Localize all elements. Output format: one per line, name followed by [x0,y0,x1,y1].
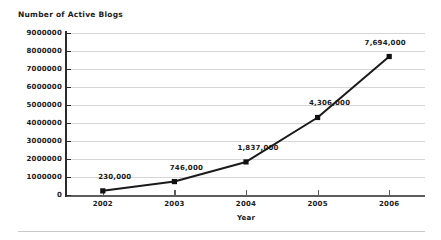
series-markers [100,54,392,194]
data-point-marker [172,179,177,184]
data-point-label: 746,000 [170,164,203,172]
data-point-marker [387,54,392,59]
data-series [0,0,441,240]
y-axis-tick-mark [67,177,71,178]
y-axis-tick-mark [67,33,71,34]
data-point-label: 4,306,000 [309,99,350,107]
series-line [103,57,389,191]
y-axis-tick-mark [67,87,71,88]
footer-divider [18,231,425,232]
y-axis-tick-mark [67,195,71,196]
y-axis-tick-mark [67,159,71,160]
data-point-marker [315,115,320,120]
y-axis-tick-mark [67,105,71,106]
data-point-label: 7,694,000 [365,39,406,47]
y-axis-tick-mark [67,141,71,142]
data-point-label: 1,837,000 [237,144,278,152]
data-point-label: 230,000 [98,173,131,181]
y-axis-tick-mark [67,69,71,70]
y-axis-tick-mark [67,51,71,52]
data-point-marker [100,188,105,193]
y-axis-tick-mark [67,123,71,124]
data-point-marker [243,159,248,164]
